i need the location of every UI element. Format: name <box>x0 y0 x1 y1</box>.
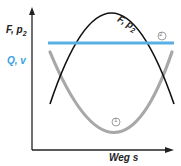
x-axis-arrow-icon <box>165 147 174 153</box>
marker-1-text: 1 <box>114 117 117 123</box>
curve-1 <box>50 52 172 133</box>
y-label-f-p2: F, p2 <box>6 24 27 37</box>
marker-2-text: 2 <box>159 31 162 37</box>
diagram-canvas <box>0 0 181 166</box>
y-label-q-v: Q, v <box>7 55 26 66</box>
axes <box>29 7 174 153</box>
x-label-weg-s: Weg s <box>109 152 138 163</box>
y-axis-arrow-icon <box>29 7 35 15</box>
